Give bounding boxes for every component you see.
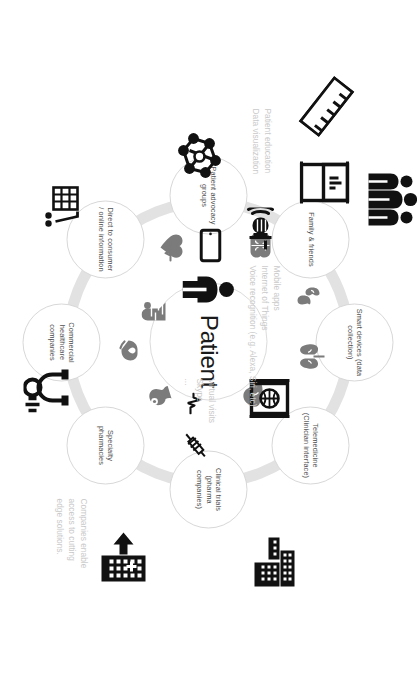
monitor-chart-icon (299, 160, 349, 204)
stomach-organ-icon (144, 380, 174, 410)
bubble-family-friends[interactable]: Family & friends (271, 200, 349, 278)
people-group-icon (367, 172, 417, 228)
annotation-patient-education: Patient education Data visualization (249, 108, 273, 228)
annotation-mobile-tech: Mobile apps Internet of Things Voice rec… (245, 265, 282, 495)
bubble-label: Specialty pharmacies (96, 407, 115, 483)
smartphone-icon (199, 228, 221, 262)
ruler-icon (298, 75, 354, 137)
lungs-organ-icon (295, 339, 327, 373)
bubble-label: Smart devices (data collection) (345, 304, 364, 380)
annotation-virtual-visits: Virtual visits Skype ... (180, 378, 217, 518)
patient-person-icon (182, 268, 234, 310)
heart-organ-icon (158, 232, 184, 262)
diagram-canvas: Patient Smart devices (data collection) … (0, 0, 417, 683)
pharmacy-building-icon (99, 530, 147, 582)
bubble-label: Telemedicine (Clinician interface) (301, 407, 320, 483)
intestine-organ-icon (141, 296, 169, 326)
office-buildings-icon (253, 536, 295, 588)
retail-shelf-icon (43, 185, 79, 227)
bubble-specialty-pharmacies[interactable]: Specialty pharmacies (66, 406, 144, 484)
bubble-label: Direct to consumer / online information (96, 201, 115, 277)
annotation-companies-enable: Companies enable access to cutting edge … (52, 498, 89, 638)
bubble-label: Family & friends (305, 208, 314, 271)
molecule-structure-icon (173, 130, 221, 182)
center-label: Patient (194, 314, 222, 387)
kidneys-organ-icon (293, 281, 323, 311)
stethoscope-icon (23, 366, 69, 420)
hand-heart-care-icon (115, 337, 141, 363)
